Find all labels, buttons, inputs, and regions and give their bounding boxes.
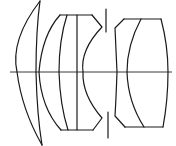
front-meniscus-element [16,1,42,145]
lens-diagram [0,0,176,146]
cemented-group-2 [39,15,102,130]
lens-diagram-svg [0,0,176,146]
rear-cemented-group [115,19,168,127]
aperture-stop [106,9,108,138]
